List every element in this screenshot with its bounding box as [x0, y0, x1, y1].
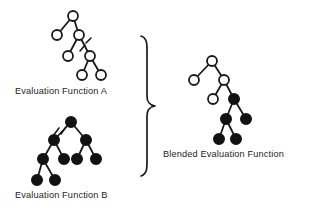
- tree-node: [229, 94, 239, 104]
- tree-node: [32, 175, 42, 185]
- tree-node: [72, 154, 82, 164]
- brace-path: [141, 36, 155, 176]
- tree-node: [63, 51, 73, 61]
- blended-tree-caption: Blended Evaluation Function: [163, 149, 284, 159]
- tree-node: [208, 94, 218, 104]
- tree-node: [207, 56, 217, 66]
- tree-node: [241, 114, 251, 124]
- tree-node: [59, 154, 69, 164]
- tree-node: [52, 30, 62, 40]
- tree-node: [77, 70, 87, 80]
- tree-node: [231, 134, 241, 144]
- tree-b-caption: Evaluation Function B: [15, 190, 108, 200]
- tree-evaluation-function-a: [52, 11, 106, 80]
- tree-node: [49, 135, 59, 145]
- tree-node: [219, 75, 229, 85]
- tree-node: [81, 135, 91, 145]
- tree-node: [74, 30, 84, 40]
- tree-node: [66, 117, 76, 127]
- tree-diagram-svg: [0, 0, 309, 213]
- tree-node: [214, 134, 224, 144]
- tree-node: [189, 75, 199, 85]
- tree-node: [91, 154, 101, 164]
- tree-node: [68, 11, 78, 21]
- tree-node: [221, 114, 231, 124]
- tree-a-edges: [57, 16, 101, 75]
- tree-node: [38, 154, 48, 164]
- tree-blended-nodes: [189, 56, 251, 144]
- cut-mark-stroke: [86, 38, 91, 43]
- diagram-canvas: Evaluation Function A Evaluation Functio…: [0, 0, 309, 213]
- tree-b-edges: [37, 122, 96, 180]
- tree-evaluation-function-b: [32, 117, 101, 185]
- combining-brace: [141, 36, 155, 176]
- cut-mark-stroke: [80, 45, 85, 51]
- tree-blended-evaluation-function: [189, 56, 251, 144]
- tree-node: [96, 70, 106, 80]
- tree-node: [85, 51, 95, 61]
- tree-node: [50, 175, 60, 185]
- tree-a-caption: Evaluation Function A: [15, 86, 107, 96]
